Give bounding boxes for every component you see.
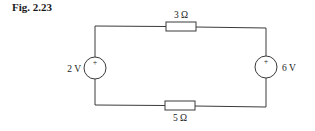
left-source-plus-icon: + — [93, 58, 98, 67]
top-resistor — [166, 22, 196, 31]
top-wire-right — [196, 27, 266, 56]
circuit-diagram: + + 2 V 6 V 3 Ω 5 Ω — [0, 0, 315, 131]
left-source-label: 2 V — [67, 64, 81, 74]
bottom-resistor-label: 5 Ω — [173, 113, 187, 123]
bottom-wire-left — [95, 79, 165, 106]
bottom-resistor — [165, 101, 195, 110]
top-resistor-label: 3 Ω — [174, 10, 188, 20]
right-source-plus-icon: + — [264, 57, 269, 66]
right-source-label: 6 V — [282, 63, 296, 73]
top-wire — [95, 26, 166, 57]
bottom-wire-right — [195, 78, 266, 107]
